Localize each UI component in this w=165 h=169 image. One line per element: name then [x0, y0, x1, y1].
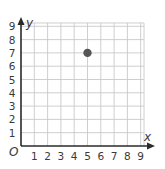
x-tick-label: 4: [71, 150, 78, 162]
y-axis-arrow-icon: [18, 17, 25, 25]
y-tick-label: 9: [9, 20, 16, 32]
y-tick-label: 5: [9, 74, 16, 86]
x-tick-label: 9: [137, 150, 144, 162]
tick-labels: 123456789123456789: [9, 20, 144, 162]
y-tick-label: 7: [9, 47, 16, 59]
y-tick-label: 1: [9, 127, 16, 139]
axes: [18, 17, 156, 150]
data-point: [83, 49, 91, 57]
grid-lines: [21, 23, 144, 146]
y-axis-label: y: [25, 16, 34, 30]
x-tick-label: 8: [124, 150, 131, 162]
origin-label: O: [9, 145, 18, 159]
x-tick-label: 5: [84, 150, 91, 162]
x-tick-label: 3: [58, 150, 65, 162]
x-tick-label: 2: [44, 150, 51, 162]
coordinate-plane: 123456789123456789 x y O: [0, 0, 165, 169]
x-axis-label: x: [143, 130, 152, 144]
y-tick-label: 3: [9, 100, 16, 112]
y-tick-label: 8: [9, 34, 16, 46]
x-tick-label: 7: [111, 150, 118, 162]
data-points: [83, 49, 91, 57]
x-tick-label: 6: [97, 150, 104, 162]
x-tick-label: 1: [31, 150, 38, 162]
y-tick-label: 2: [9, 113, 16, 125]
y-tick-label: 6: [9, 60, 16, 72]
y-tick-label: 4: [9, 87, 16, 99]
